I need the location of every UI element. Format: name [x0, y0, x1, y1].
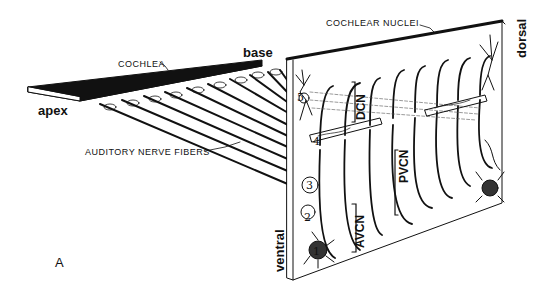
dcn-label: DCN	[355, 94, 367, 120]
cochlear-nuclei-label: COCHLEAR NUCLEI	[326, 19, 419, 28]
ventral-label: ventral	[273, 229, 286, 272]
dorsal-label: dorsal	[515, 19, 528, 58]
apex-label: apex	[38, 104, 68, 117]
cell-number-5: 5	[297, 92, 304, 103]
avcn-label: AVCN	[354, 215, 366, 248]
cell-number-3: 3	[306, 180, 313, 191]
pvcn-label: PVCN	[398, 150, 410, 183]
cell-number-1: 1	[313, 246, 320, 257]
cell-number-2: 2	[304, 212, 311, 223]
panel-label: A	[55, 256, 64, 269]
cochlea-label: COCHLEA	[118, 60, 165, 69]
base-label: base	[243, 46, 273, 59]
cell-number-4: 4	[313, 136, 320, 147]
auditory-nerve-fibers-label: AUDITORY NERVE FIBERS	[85, 148, 210, 157]
